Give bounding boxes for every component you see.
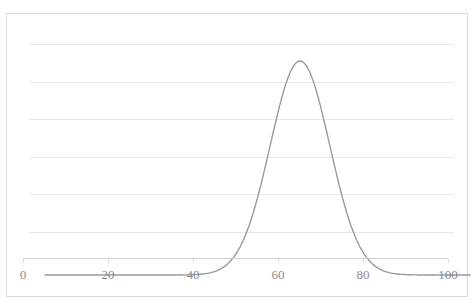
x-axis-tick [278, 259, 279, 263]
x-axis-label-80: 80 [357, 266, 370, 284]
chart-frame: 0 20 40 60 80 100 [6, 13, 468, 297]
curve-path [45, 61, 470, 275]
x-axis-tick [108, 259, 109, 263]
plot-area [29, 31, 454, 275]
x-axis-label-100: 100 [438, 266, 458, 284]
x-axis-tick-labels: 0 20 40 60 80 100 [23, 266, 448, 290]
x-axis-label-40: 40 [187, 266, 200, 284]
normal-distribution-chart: 0 20 40 60 80 100 [0, 0, 474, 302]
x-axis-tick [193, 259, 194, 263]
x-axis-label-60: 60 [272, 266, 285, 284]
series-line-normal-distribution [29, 31, 454, 275]
x-axis-label-0: 0 [20, 266, 27, 284]
x-axis-tick [363, 259, 364, 263]
x-axis-tick [23, 259, 24, 263]
x-axis-line [23, 258, 448, 259]
x-axis-tick [448, 259, 449, 263]
x-axis-label-20: 20 [102, 266, 115, 284]
